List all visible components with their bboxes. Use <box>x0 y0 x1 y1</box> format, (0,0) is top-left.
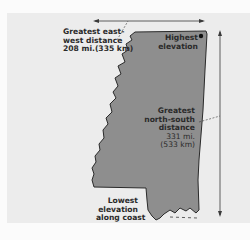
north-south-label: Greatest north-south distance 331 mi. (5… <box>143 107 195 150</box>
coast-dash-line <box>170 217 197 218</box>
highest-elevation-point-icon <box>199 34 203 38</box>
east-west-label: Greatest east- west distance 208 mi.(335… <box>63 28 115 54</box>
arrow-left-head-icon <box>93 19 99 23</box>
label-line: along coast <box>96 214 138 223</box>
label-line: elevation <box>158 43 198 52</box>
arrow-down-head-icon <box>218 211 222 217</box>
highest-elevation-label: Highest elevation <box>158 34 198 51</box>
arrow-right-head-icon <box>199 19 205 23</box>
diagram-stage: Greatest east- west distance 208 mi.(335… <box>0 0 250 240</box>
lowest-elevation-label: Lowest elevation along coast <box>96 197 138 223</box>
arrow-up-head-icon <box>218 30 222 36</box>
label-line: 208 mi.(335 km) <box>63 45 115 54</box>
label-line: (533 km) <box>143 141 195 150</box>
